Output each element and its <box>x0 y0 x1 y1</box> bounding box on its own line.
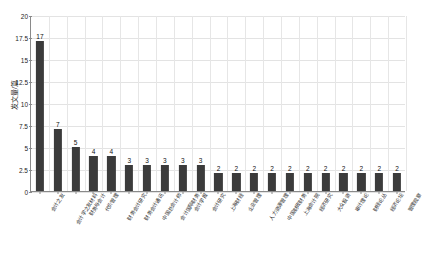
bar-slot[interactable]: 2 <box>388 16 406 191</box>
bar[interactable] <box>125 165 133 191</box>
bar-slot[interactable]: 2 <box>227 16 245 191</box>
bar-value-label: 4 <box>92 148 96 155</box>
bar-slot[interactable]: 3 <box>156 16 174 191</box>
bar-slot[interactable]: 2 <box>263 16 281 191</box>
bar-slot[interactable]: 7 <box>49 16 67 191</box>
bar-slot[interactable]: 2 <box>352 16 370 191</box>
bar-slot[interactable]: 5 <box>67 16 85 191</box>
bar-value-label: 4 <box>110 148 114 155</box>
bar[interactable] <box>179 165 187 191</box>
bar-value-label: 2 <box>377 165 381 172</box>
x-axis-category-label: 经济研究 <box>318 193 333 213</box>
bar-value-label: 3 <box>163 157 167 164</box>
bar[interactable] <box>322 173 330 191</box>
bar-series: 1775443333322222222222 <box>31 16 405 191</box>
bar[interactable] <box>232 173 240 191</box>
bar-value-label: 2 <box>217 165 221 172</box>
bar[interactable] <box>304 173 312 191</box>
bar-value-label: 2 <box>270 165 274 172</box>
bar[interactable] <box>161 165 169 191</box>
bar[interactable] <box>143 165 151 191</box>
bar-value-label: 2 <box>360 165 364 172</box>
bar[interactable] <box>268 173 276 191</box>
x-axis-category-label: 管理观察 <box>408 193 423 213</box>
bar[interactable] <box>250 173 258 191</box>
bar[interactable] <box>54 129 62 191</box>
x-axis-category-label: 审计理论 <box>354 193 369 213</box>
bar-slot[interactable]: 17 <box>31 16 49 191</box>
x-axis-category-label: 会计之友 <box>50 193 65 213</box>
bar[interactable] <box>214 173 222 191</box>
x-axis-category-label: 大众投资 <box>336 193 351 213</box>
bar-slot[interactable]: 2 <box>210 16 228 191</box>
bar[interactable] <box>72 147 80 191</box>
bar[interactable] <box>89 156 97 191</box>
bar[interactable] <box>339 173 347 191</box>
bar-slot[interactable]: 2 <box>335 16 353 191</box>
bar-slot[interactable]: 3 <box>174 16 192 191</box>
bar[interactable] <box>36 41 44 191</box>
bar-value-label: 2 <box>235 165 239 172</box>
bar-value-label: 3 <box>145 157 149 164</box>
bar-slot[interactable]: 4 <box>102 16 120 191</box>
bar-value-label: 17 <box>36 33 43 40</box>
x-axis-category-label: 经济论坛 <box>390 193 405 213</box>
bar-value-label: 3 <box>127 157 131 164</box>
bar[interactable] <box>393 173 401 191</box>
x-axis-category-label: 会计研究 <box>211 193 226 213</box>
plot-area: 02.557.51012.51517.520 17754433333222222… <box>30 16 405 192</box>
bar[interactable] <box>286 173 294 191</box>
bar[interactable] <box>375 173 383 191</box>
y-axis-label: 发文量/篇 <box>9 65 19 125</box>
bar-value-label: 5 <box>74 139 78 146</box>
bar-value-label: 2 <box>306 165 310 172</box>
bar-slot[interactable]: 3 <box>192 16 210 191</box>
x-axis-category-label: 上海财经 <box>229 193 244 213</box>
x-axis-labels: 会计之友会计学之友材料财务与会计代价管理财务会计研究财务会计通讯中国总会计师会计… <box>30 193 405 257</box>
x-axis-category-label: 企业管理 <box>247 193 262 213</box>
bar-value-label: 3 <box>181 157 185 164</box>
bar-value-label: 2 <box>342 165 346 172</box>
bar-slot[interactable]: 2 <box>281 16 299 191</box>
x-axis-category-label: 财经论丛 <box>372 193 387 213</box>
bar-value-label: 2 <box>288 165 292 172</box>
bar-slot[interactable]: 3 <box>138 16 156 191</box>
gridline-vertical <box>406 16 407 191</box>
bar-slot[interactable]: 2 <box>370 16 388 191</box>
bar[interactable] <box>357 173 365 191</box>
bar-value-label: 3 <box>199 157 203 164</box>
bar-value-label: 2 <box>324 165 328 172</box>
bar-value-label: 2 <box>252 165 256 172</box>
bar-value-label: 2 <box>395 165 399 172</box>
bar[interactable] <box>197 165 205 191</box>
bar-slot[interactable]: 2 <box>299 16 317 191</box>
bar-slot[interactable]: 3 <box>120 16 138 191</box>
bar-slot[interactable]: 2 <box>245 16 263 191</box>
bar-slot[interactable]: 4 <box>85 16 103 191</box>
bar-value-label: 7 <box>56 121 60 128</box>
bar-slot[interactable]: 2 <box>317 16 335 191</box>
bar[interactable] <box>107 156 115 191</box>
